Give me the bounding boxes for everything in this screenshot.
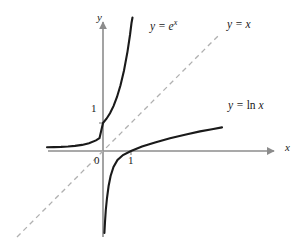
plot-canvas: [0, 0, 301, 245]
exponential-curve-label: y = ex: [150, 19, 177, 32]
y-axis-label: y: [97, 12, 102, 23]
figure-root: y x 1 0 1 y = ex y = x y = ln x: [0, 0, 301, 245]
identity-line-label: y = x: [227, 19, 251, 31]
origin-label: 0: [94, 155, 100, 166]
x-axis-tick-label-1: 1: [128, 155, 134, 166]
logarithm-curve-label-fn: ln: [247, 99, 259, 111]
logarithm-curve-label-prefix: y =: [228, 99, 247, 111]
exponential-curve: [47, 18, 133, 148]
exponential-curve-label-exponent: x: [174, 18, 178, 27]
logarithm-curve: [104, 127, 222, 233]
exponential-curve-label-base: y = e: [150, 20, 174, 32]
logarithm-curve-label-arg: x: [258, 99, 263, 111]
logarithm-curve-label: y = ln x: [228, 100, 264, 112]
x-axis-label: x: [285, 142, 290, 153]
y-axis-tick-label-1: 1: [91, 103, 97, 114]
identity-line-dashed: [17, 36, 218, 237]
